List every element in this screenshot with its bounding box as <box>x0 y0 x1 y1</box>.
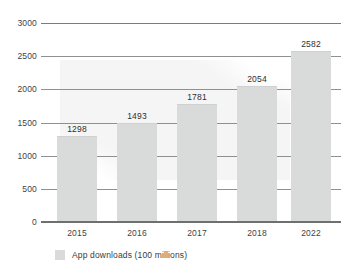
x-axis-tick-label-2018: 2018 <box>237 228 277 238</box>
y-axis-tick-label: 1000 <box>0 151 37 161</box>
bar-value-label: 2582 <box>301 39 321 49</box>
bar-value-label: 1493 <box>127 111 147 121</box>
x-axis-tick-label-2015: 2015 <box>57 228 97 238</box>
y-axis-tick-label: 0 <box>0 217 37 227</box>
legend-swatch-icon <box>55 250 65 260</box>
bar-2017[interactable] <box>177 104 217 222</box>
x-axis-tick-label-2016: 2016 <box>117 228 157 238</box>
bar-2018[interactable] <box>237 86 277 222</box>
bar-value-label: 1781 <box>187 92 207 102</box>
y-axis-tick-label: 2500 <box>0 51 37 61</box>
chart-legend: App downloads (100 millions) <box>55 250 187 260</box>
legend-label: App downloads (100 millions) <box>72 250 187 260</box>
bars-layer: 1298 1493 1781 2054 2582 <box>41 23 341 222</box>
bar-2016[interactable] <box>117 123 157 222</box>
y-axis-tick-label: 3000 <box>0 18 37 28</box>
bar-2015[interactable] <box>57 136 97 222</box>
bar-chart: 3000 2500 2000 1500 1000 500 0 1298 1493 <box>0 0 351 277</box>
y-axis-tick-label: 2000 <box>0 84 37 94</box>
bar-value-label: 2054 <box>247 74 267 84</box>
x-axis-tick-label-2022: 2022 <box>291 228 331 238</box>
bar-2022[interactable] <box>291 51 331 222</box>
x-axis-line <box>41 221 341 223</box>
y-axis-tick-label: 500 <box>0 184 37 194</box>
y-axis-tick-label: 1500 <box>0 118 37 128</box>
plot-area: 1298 1493 1781 2054 2582 <box>41 23 341 222</box>
x-axis-tick-labels: 2015 2016 2017 2018 2022 <box>41 228 341 242</box>
bar-value-label: 1298 <box>67 124 87 134</box>
x-axis-tick-label-2017: 2017 <box>177 228 217 238</box>
